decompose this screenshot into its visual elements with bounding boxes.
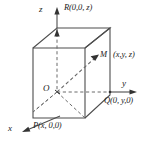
y-axis-label: y <box>122 79 126 88</box>
x-axis-dashed-segment <box>33 92 57 112</box>
box-solid-edges <box>33 28 110 118</box>
y-axis-arrowhead <box>130 89 138 94</box>
point-Q-label: Q(0, y,0) <box>104 96 133 105</box>
point-M-label: M <box>100 50 107 59</box>
box-diagram-svg <box>0 0 155 147</box>
point-P-label: P(x, 0,0) <box>33 121 62 130</box>
z-axis-arrowhead <box>54 7 59 15</box>
origin-label: O <box>43 84 49 93</box>
coordinate-box-figure: z R(0,0, z) M (x,y, z) y Q(0, y,0) O x P… <box>0 0 155 147</box>
O-to-P-edge <box>33 92 57 112</box>
x-axis-arrowhead <box>22 127 30 132</box>
front-face-edge <box>33 48 85 118</box>
O-to-front-bottom-right-edge <box>57 92 85 118</box>
x-axis-label: x <box>8 124 12 133</box>
point-R-label: R(0,0, z) <box>64 3 92 12</box>
z-axis-label: z <box>39 5 42 14</box>
diagonal-M-arrowhead <box>91 55 99 61</box>
point-Q-marker <box>109 91 112 94</box>
point-M-coords-label: (x,y, z) <box>113 50 135 59</box>
diagonal-O-to-M <box>57 58 95 92</box>
top-face-edge <box>33 28 110 48</box>
